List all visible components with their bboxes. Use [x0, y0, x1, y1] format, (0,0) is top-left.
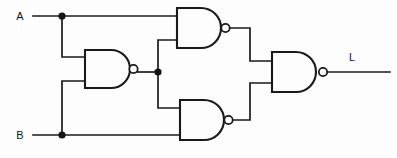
wire-g3-to-g4: [229, 83, 272, 120]
wire-g1-to-g4: [229, 28, 272, 61]
output-label-l: L: [349, 51, 355, 63]
wire-input-a-to-g2: [62, 16, 85, 57]
junction-dot-input-a: [58, 12, 65, 19]
wire-input-b-to-g2: [62, 81, 85, 135]
inversion-bubble-g4: [319, 68, 327, 76]
nand-gate-g2: [85, 50, 130, 88]
input-label-b: B: [16, 129, 23, 141]
inversion-bubble-g1: [221, 24, 229, 32]
junction-dot-input-b: [58, 131, 65, 138]
logic-circuit-diagram: A B L: [0, 0, 397, 158]
wire-g2-to-g3: [158, 72, 180, 108]
nand-gate-g3: [180, 100, 224, 140]
input-label-a: A: [16, 10, 24, 22]
wire-g2-to-g1: [158, 40, 177, 72]
nand-gate-g4: [272, 52, 316, 92]
nand-gate-g1: [177, 8, 221, 48]
circuit-schematic-canvas: A B L: [0, 0, 397, 158]
inversion-bubble-g3: [224, 116, 232, 124]
junction-dot-g2-output: [154, 68, 161, 75]
inversion-bubble-g2: [129, 65, 137, 73]
